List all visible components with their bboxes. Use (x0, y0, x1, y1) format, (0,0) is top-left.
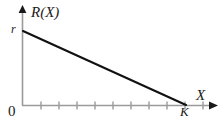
x-intercept-label-k: K (180, 105, 189, 118)
origin-label: 0 (8, 104, 16, 119)
x-axis-label: X (196, 88, 205, 103)
y-intercept-label-r: r (11, 23, 16, 35)
y-axis-label: R(X) (31, 5, 59, 20)
y-axis-arrow-icon (19, 5, 27, 13)
data-line-rx (23, 31, 186, 105)
figure-container: R(X) X 0 r K (0, 0, 222, 127)
x-axis-arrow-icon (209, 102, 218, 110)
